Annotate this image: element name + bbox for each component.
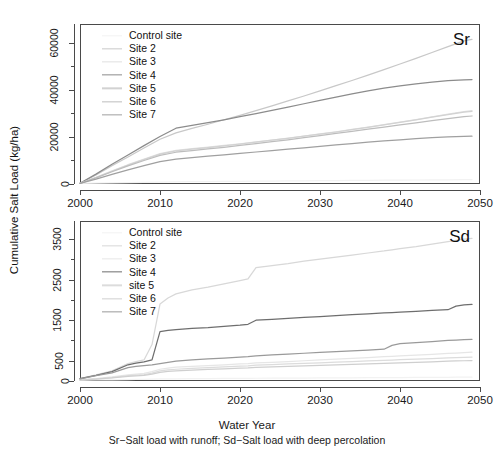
legend-swatch-icon bbox=[102, 292, 122, 305]
legend-item-label: Control site bbox=[129, 29, 182, 42]
x-tick-label: 2000 bbox=[67, 394, 93, 406]
y-axis-title: Cumulative Salt Load (kg/ha) bbox=[2, 0, 26, 400]
series-line bbox=[80, 377, 472, 380]
x-tick-label: 2030 bbox=[307, 197, 333, 209]
legend-item: Site 2 bbox=[102, 42, 182, 55]
x-tick-major bbox=[80, 387, 81, 392]
legend-swatch-icon bbox=[102, 69, 122, 82]
x-tick-major bbox=[240, 190, 241, 195]
y-tick-minor bbox=[71, 113, 74, 114]
legend-item-label: Site 2 bbox=[129, 239, 156, 252]
legend-item-label: Site 2 bbox=[129, 42, 156, 55]
legend-item: Control site bbox=[102, 29, 182, 42]
y-tick-minor bbox=[71, 340, 74, 341]
legend-swatch-icon bbox=[102, 266, 122, 279]
legend-item-label: Site 4 bbox=[129, 266, 156, 279]
y-axis-line bbox=[74, 24, 75, 184]
y-tick-major bbox=[69, 280, 74, 281]
legend-swatch-icon bbox=[102, 55, 122, 68]
y-tick-major bbox=[69, 361, 74, 362]
figure-canvas: Cumulative Salt Load (kg/ha) Sr Control … bbox=[0, 0, 494, 463]
legend-item-label: Site 6 bbox=[129, 292, 156, 305]
x-tick-label: 2010 bbox=[147, 197, 173, 209]
legend-item-label: Site 7 bbox=[129, 108, 156, 121]
legend-swatch-icon bbox=[102, 29, 122, 42]
legend-swatch-icon bbox=[102, 95, 122, 108]
figure-caption: Sr−Salt load with runoff; Sd−Salt load w… bbox=[0, 434, 494, 446]
legend-item-label: Site 4 bbox=[129, 69, 156, 82]
legend-item-label: Site 5 bbox=[129, 82, 156, 95]
legend-item: Site 5 bbox=[102, 82, 182, 95]
legend-sr: Control siteSite 2Site 3Site 4Site 5Site… bbox=[102, 29, 182, 121]
legend-item-label: Site 6 bbox=[129, 95, 156, 108]
x-tick-major bbox=[400, 387, 401, 392]
x-tick-major bbox=[240, 387, 241, 392]
legend-swatch-icon bbox=[102, 42, 122, 55]
y-axis-line bbox=[74, 221, 75, 381]
x-axis-line bbox=[80, 387, 480, 388]
legend-item: Control site bbox=[102, 226, 182, 239]
legend-swatch-icon bbox=[102, 279, 122, 292]
legend-item: site 5 bbox=[102, 279, 182, 292]
legend-item: Site 4 bbox=[102, 266, 182, 279]
legend-swatch-icon bbox=[102, 108, 122, 121]
legend-item: Site 3 bbox=[102, 55, 182, 68]
y-tick-label: 500 bbox=[28, 355, 68, 367]
legend-item: Site 3 bbox=[102, 252, 182, 265]
x-tick-major bbox=[480, 387, 481, 392]
y-tick-label: 2500 bbox=[28, 274, 68, 286]
x-tick-label: 2050 bbox=[467, 197, 493, 209]
series-line bbox=[80, 136, 472, 183]
y-tick-label: 0 bbox=[28, 375, 68, 387]
legend-item-label: Site 7 bbox=[129, 305, 156, 318]
panel-sr: Sr Control siteSite 2Site 3Site 4Site 5S… bbox=[80, 24, 480, 184]
legend-item: Site 2 bbox=[102, 239, 182, 252]
y-tick-minor bbox=[71, 259, 74, 260]
legend-swatch-icon bbox=[102, 305, 122, 318]
y-tick-label: 1500 bbox=[28, 314, 68, 326]
x-tick-label: 2000 bbox=[67, 197, 93, 209]
legend-swatch-icon bbox=[102, 252, 122, 265]
panel-label-sr: Sr bbox=[453, 30, 470, 50]
legend-item: Site 4 bbox=[102, 69, 182, 82]
legend-item: Site 6 bbox=[102, 95, 182, 108]
x-tick-major bbox=[480, 190, 481, 195]
series-line bbox=[80, 180, 472, 184]
y-tick-major bbox=[69, 137, 74, 138]
panel-label-sd: Sd bbox=[449, 227, 470, 247]
legend-item-label: Control site bbox=[129, 226, 182, 239]
x-tick-label: 2040 bbox=[387, 197, 413, 209]
y-tick-major bbox=[69, 320, 74, 321]
y-tick-minor bbox=[71, 300, 74, 301]
legend-swatch-icon bbox=[102, 239, 122, 252]
legend-swatch-icon bbox=[102, 226, 122, 239]
legend-item: Site 6 bbox=[102, 292, 182, 305]
x-tick-label: 2030 bbox=[307, 394, 333, 406]
legend-swatch-icon bbox=[102, 82, 122, 95]
y-tick-label: 20000 bbox=[28, 131, 68, 143]
x-tick-major bbox=[400, 190, 401, 195]
x-tick-label: 2040 bbox=[387, 394, 413, 406]
x-tick-label: 2050 bbox=[467, 394, 493, 406]
x-tick-major bbox=[160, 190, 161, 195]
x-tick-major bbox=[320, 190, 321, 195]
series-line bbox=[80, 111, 472, 184]
legend-item-label: site 5 bbox=[129, 279, 154, 292]
legend-item-label: Site 3 bbox=[129, 252, 156, 265]
legend-sd: Control siteSite 2Site 3Site 4site 5Site… bbox=[102, 226, 182, 318]
y-tick-label: 40000 bbox=[28, 84, 68, 96]
y-tick-label: 3500 bbox=[28, 233, 68, 245]
legend-item: Site 7 bbox=[102, 108, 182, 121]
y-tick-label: 60000 bbox=[28, 37, 68, 49]
x-axis-title: Water Year bbox=[0, 419, 494, 431]
x-tick-major bbox=[80, 190, 81, 195]
series-line bbox=[80, 111, 472, 183]
y-tick-minor bbox=[71, 160, 74, 161]
y-tick-label: 0 bbox=[28, 178, 68, 190]
legend-item-label: Site 3 bbox=[129, 55, 156, 68]
x-axis-line bbox=[80, 190, 480, 191]
y-tick-major bbox=[69, 239, 74, 240]
x-tick-major bbox=[320, 387, 321, 392]
x-tick-label: 2020 bbox=[227, 197, 253, 209]
y-tick-major bbox=[69, 43, 74, 44]
